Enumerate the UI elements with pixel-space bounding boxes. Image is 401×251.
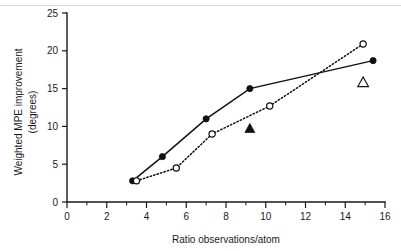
y-tick-label: 0	[52, 197, 58, 208]
x-tick-label: 16	[379, 211, 391, 222]
series-line-solid	[133, 61, 373, 181]
marker-open-circle	[267, 103, 273, 109]
marker-open-circle	[360, 41, 366, 47]
figure-container: Weighted MPE improvement (degrees) Ratio…	[0, 0, 401, 251]
y-tick-label: 25	[47, 8, 59, 19]
marker-open-circle	[209, 131, 215, 137]
series-filled-triangle-single-point	[245, 123, 255, 132]
x-axis-tick-labels: 0246810121416	[64, 211, 391, 222]
x-tick-label: 10	[260, 211, 272, 222]
x-tick-label: 2	[104, 211, 110, 222]
y-tick-label: 10	[47, 121, 59, 132]
y-axis-ticks	[62, 13, 67, 202]
x-tick-label: 4	[144, 211, 150, 222]
y-axis-title-line1: Weighted MPE improvement	[13, 48, 24, 175]
x-tick-label: 14	[340, 211, 352, 222]
series-solid-line-filled-circles	[129, 58, 376, 184]
marker-filled-circle	[370, 58, 376, 64]
marker-open-circle	[133, 178, 139, 184]
y-axis-tick-labels: 0510152025	[47, 8, 59, 208]
x-axis-title: Ratio observations/atom	[172, 234, 280, 245]
y-tick-label: 20	[47, 45, 59, 56]
marker-filled-circle	[203, 116, 209, 122]
y-axis-title: Weighted MPE improvement (degrees)	[13, 48, 38, 175]
y-axis-title-line2: (degrees)	[27, 91, 38, 134]
y-tick-label: 15	[47, 83, 59, 94]
x-tick-label: 6	[183, 211, 189, 222]
marker-filled-triangle	[245, 123, 255, 132]
x-tick-label: 0	[64, 211, 70, 222]
axes-lines	[67, 13, 385, 202]
x-axis-ticks	[67, 202, 385, 208]
series-dotted-line-open-circles	[133, 41, 366, 184]
series-line-dotted	[137, 44, 364, 181]
scatter-line-chart: Weighted MPE improvement (degrees) Ratio…	[0, 0, 401, 251]
marker-filled-circle	[159, 154, 165, 160]
data-series-layer	[129, 41, 376, 184]
x-tick-label: 12	[300, 211, 312, 222]
marker-filled-circle	[247, 86, 253, 92]
y-tick-label: 5	[52, 159, 58, 170]
marker-open-circle	[173, 165, 179, 171]
marker-open-triangle	[358, 77, 369, 87]
series-open-triangle-single-point	[358, 77, 369, 87]
x-tick-label: 8	[223, 211, 229, 222]
